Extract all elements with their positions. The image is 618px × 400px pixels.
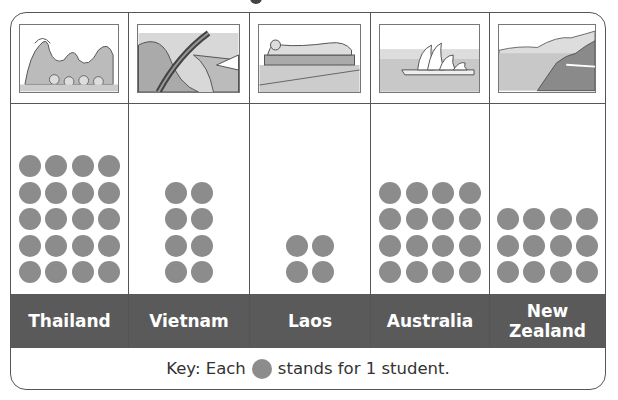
hand-bridge-icon — [137, 24, 240, 93]
student-dot-icon — [312, 235, 334, 257]
student-dot-icon — [19, 155, 41, 177]
student-dot-icon — [379, 208, 401, 230]
student-dot-icon — [72, 261, 94, 283]
dot-group — [497, 208, 599, 283]
key-prefix: Key: Each — [166, 359, 246, 378]
student-dot-icon — [98, 261, 120, 283]
student-dot-icon — [550, 261, 572, 283]
student-dot-icon — [459, 235, 481, 257]
student-dot-icon — [252, 359, 272, 379]
student-dot-icon — [550, 235, 572, 257]
student-dot-icon — [432, 208, 454, 230]
student-dot-icon — [523, 208, 545, 230]
student-dot-icon — [98, 155, 120, 177]
student-dot-icon — [379, 261, 401, 283]
dot-group — [19, 155, 121, 283]
category-label: Vietnam — [149, 311, 229, 331]
student-dot-icon — [45, 261, 67, 283]
student-dot-icon — [191, 208, 213, 230]
category-label: Laos — [288, 311, 332, 331]
student-dot-icon — [432, 182, 454, 204]
student-dot-icon — [497, 261, 519, 283]
column-australia: Australia — [371, 13, 490, 348]
key-suffix: stands for 1 student. — [278, 359, 450, 378]
student-dot-icon — [191, 182, 213, 204]
student-dot-icon — [497, 235, 519, 257]
student-dot-icon — [72, 182, 94, 204]
dot-group — [165, 182, 214, 284]
column-vietnam: Vietnam — [129, 13, 250, 348]
student-dot-icon — [576, 261, 598, 283]
student-dot-icon — [165, 182, 187, 204]
student-dot-icon — [45, 155, 67, 177]
student-dot-icon — [523, 235, 545, 257]
chart-key: Key: Each stands for 1 student. — [11, 348, 605, 389]
student-dot-icon — [576, 235, 598, 257]
pictograph-chart: Thailand Vietnam Laos Australia — [10, 12, 606, 390]
student-dot-icon — [459, 182, 481, 204]
student-dot-icon — [286, 261, 308, 283]
student-dot-icon — [379, 182, 401, 204]
category-label: New Zealand — [509, 301, 586, 341]
student-dot-icon — [432, 235, 454, 257]
title-fragment — [250, 0, 262, 4]
column-new-zealand: New Zealand — [490, 13, 605, 348]
column-laos: Laos — [250, 13, 371, 348]
student-dot-icon — [576, 208, 598, 230]
student-dot-icon — [72, 235, 94, 257]
student-dot-icon — [379, 235, 401, 257]
category-label: Australia — [387, 311, 474, 331]
chart-columns: Thailand Vietnam Laos Australia — [11, 13, 605, 348]
student-dot-icon — [406, 235, 428, 257]
student-dot-icon — [459, 208, 481, 230]
student-dot-icon — [72, 208, 94, 230]
student-dot-icon — [286, 235, 308, 257]
opera-house-icon — [379, 24, 480, 93]
student-dot-icon — [45, 182, 67, 204]
student-dot-icon — [98, 208, 120, 230]
student-dot-icon — [19, 182, 41, 204]
reclining-buddha-icon — [258, 24, 361, 93]
student-dot-icon — [191, 261, 213, 283]
fjord-landscape-icon — [498, 24, 596, 93]
student-dot-icon — [98, 182, 120, 204]
dot-group — [286, 235, 335, 284]
student-dot-icon — [45, 235, 67, 257]
student-dot-icon — [550, 208, 572, 230]
student-dot-icon — [406, 208, 428, 230]
column-thailand: Thailand — [11, 13, 129, 348]
student-dot-icon — [406, 261, 428, 283]
category-label: Thailand — [28, 311, 111, 331]
student-dot-icon — [312, 261, 334, 283]
dragon-statue-icon — [19, 24, 119, 93]
student-dot-icon — [98, 235, 120, 257]
student-dot-icon — [432, 261, 454, 283]
dot-group — [379, 182, 481, 284]
student-dot-icon — [45, 208, 67, 230]
student-dot-icon — [459, 261, 481, 283]
student-dot-icon — [19, 261, 41, 283]
student-dot-icon — [165, 261, 187, 283]
student-dot-icon — [19, 235, 41, 257]
student-dot-icon — [191, 235, 213, 257]
student-dot-icon — [19, 208, 41, 230]
student-dot-icon — [523, 261, 545, 283]
student-dot-icon — [497, 208, 519, 230]
student-dot-icon — [406, 182, 428, 204]
student-dot-icon — [165, 235, 187, 257]
student-dot-icon — [72, 155, 94, 177]
student-dot-icon — [165, 208, 187, 230]
